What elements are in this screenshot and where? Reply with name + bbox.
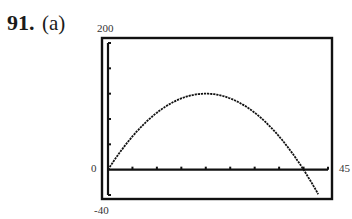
plot-frame — [102, 38, 332, 199]
function-graph — [108, 94, 318, 195]
parabola-curve — [108, 94, 318, 195]
axes — [108, 43, 328, 195]
graphing-calculator-plot — [0, 0, 352, 219]
